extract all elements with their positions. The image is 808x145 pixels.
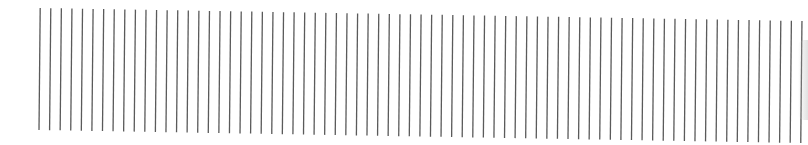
vertical-line	[261, 12, 262, 134]
vertical-line	[706, 19, 707, 141]
vertical-line	[589, 17, 590, 139]
vertical-line	[642, 18, 643, 140]
vertical-line	[39, 8, 40, 130]
vertical-line	[388, 14, 389, 136]
vertical-line	[547, 17, 548, 139]
vertical-line	[229, 11, 230, 133]
vertical-line	[166, 10, 167, 132]
vertical-line	[251, 12, 252, 134]
vertical-line	[219, 11, 220, 133]
vertical-line	[420, 15, 421, 137]
vertical-line	[155, 10, 156, 132]
vertical-line	[748, 20, 749, 142]
vertical-line	[314, 13, 315, 135]
vertical-line-pattern	[0, 0, 808, 145]
vertical-line	[462, 15, 463, 137]
vertical-line	[272, 12, 273, 134]
vertical-line	[399, 14, 400, 136]
vertical-line	[526, 16, 527, 138]
vertical-line	[557, 17, 558, 139]
vertical-line	[452, 15, 453, 137]
vertical-line	[240, 11, 241, 133]
vertical-line	[758, 20, 759, 142]
vertical-line	[653, 18, 654, 140]
vertical-line	[684, 19, 685, 141]
vertical-line	[737, 20, 738, 142]
vertical-line	[505, 16, 506, 138]
vertical-line	[790, 21, 791, 143]
vertical-line	[282, 12, 283, 134]
vertical-line	[177, 10, 178, 132]
vertical-line	[441, 15, 442, 137]
vertical-line	[727, 20, 728, 142]
vertical-line	[600, 18, 601, 140]
vertical-line	[208, 11, 209, 133]
vertical-line	[695, 19, 696, 141]
vertical-line	[304, 13, 305, 135]
vertical-line	[716, 20, 717, 142]
vertical-line	[674, 19, 675, 141]
vertical-line	[81, 9, 82, 131]
vertical-line	[346, 13, 347, 135]
vertical-line	[536, 16, 537, 138]
vertical-line	[198, 11, 199, 133]
vertical-line	[60, 8, 61, 130]
vertical-line	[631, 18, 632, 140]
scan-edge-shadow	[798, 40, 808, 120]
vertical-line	[187, 11, 188, 133]
vertical-line	[145, 10, 146, 132]
vertical-line	[124, 9, 125, 131]
vertical-line	[134, 10, 135, 132]
vertical-line	[769, 20, 770, 142]
vertical-line	[515, 16, 516, 138]
vertical-line	[621, 18, 622, 140]
vertical-line	[378, 14, 379, 136]
vertical-line	[113, 9, 114, 131]
vertical-line	[579, 17, 580, 139]
vertical-line	[483, 16, 484, 138]
vertical-line	[102, 9, 103, 131]
vertical-line	[430, 15, 431, 137]
vertical-line	[568, 17, 569, 139]
vertical-line	[780, 21, 781, 143]
vertical-line	[610, 18, 611, 140]
vertical-line	[293, 12, 294, 134]
vertical-line	[663, 19, 664, 141]
vertical-line	[356, 13, 357, 135]
vertical-line	[71, 9, 72, 131]
vertical-line	[473, 15, 474, 137]
vertical-line	[409, 14, 410, 136]
vertical-line	[494, 16, 495, 138]
vertical-line	[335, 13, 336, 135]
vertical-line	[92, 9, 93, 131]
vertical-line	[50, 8, 51, 130]
vertical-line	[325, 13, 326, 135]
vertical-line	[367, 14, 368, 136]
